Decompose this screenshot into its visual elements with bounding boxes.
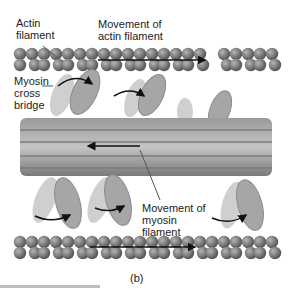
label-myosin-cross-bridge: Myosincrossbridge: [14, 75, 49, 111]
myosin-thick-filament: [20, 118, 272, 176]
label-movement-actin: Movement ofactin filament: [98, 18, 163, 42]
label-movement-myosin: Movement ofmyosinfilament: [142, 202, 206, 238]
panel-label: (b): [130, 272, 143, 284]
sliding-filament-diagram: [0, 0, 295, 296]
divider-bar: [0, 285, 100, 288]
label-actin-filament: Actinfilament: [16, 17, 55, 41]
